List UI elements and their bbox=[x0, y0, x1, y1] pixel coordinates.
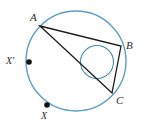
geometry-figure: A B C X′ X bbox=[0, 0, 146, 127]
point-label-x-prime: X′ bbox=[6, 56, 14, 66]
vertex-label-a: A bbox=[30, 12, 37, 23]
inscribed-circle bbox=[81, 46, 114, 79]
point-marker-x bbox=[44, 102, 50, 108]
point-label-x: X bbox=[41, 111, 47, 121]
geometry-canvas bbox=[0, 0, 146, 127]
vertex-label-b: B bbox=[126, 40, 133, 51]
point-marker-x-prime bbox=[26, 59, 32, 65]
vertex-label-c: C bbox=[116, 95, 123, 106]
